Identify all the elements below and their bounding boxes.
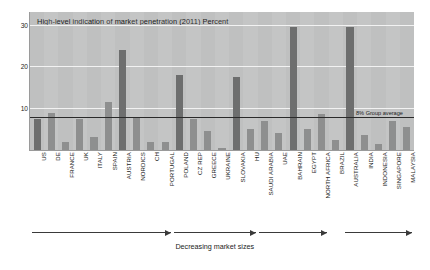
bar xyxy=(275,133,282,150)
bar xyxy=(62,142,69,150)
x-axis-tick-label: UKRAINE xyxy=(224,152,231,180)
market-size-arrow xyxy=(32,228,171,237)
bar xyxy=(105,102,112,150)
x-axis-tick-label: NORDICS xyxy=(139,152,146,181)
x-axis-tick-label: AUSTRIA xyxy=(125,152,132,179)
arrow-shaft xyxy=(345,232,413,233)
x-axis-tick-label: EGYPT xyxy=(310,152,317,173)
x-axis-tick-label: ITALY xyxy=(96,152,103,169)
bar xyxy=(34,119,41,150)
x-axis-tick-label: PORTUGAL xyxy=(168,152,175,186)
x-axis-tick-label: US xyxy=(40,152,47,161)
x-axis-tick-label: HU xyxy=(253,152,260,161)
arrow-head xyxy=(406,230,412,236)
x-axis-tick-label: SAUDI ARABIA xyxy=(267,152,274,196)
bar xyxy=(176,75,183,150)
group-average-label: 8% Group average xyxy=(356,110,403,116)
market-size-arrows: Decreasing market sizes xyxy=(0,228,430,270)
y-axis-tick: 20 xyxy=(2,63,28,70)
x-axis-tick-label: BRAZIL xyxy=(338,152,345,174)
x-axis-tick-label: INDONESIA xyxy=(381,152,388,186)
bar xyxy=(76,119,83,150)
bar xyxy=(190,119,197,150)
bar xyxy=(346,27,353,150)
arrow-head xyxy=(165,230,171,236)
group-average-line xyxy=(30,117,414,118)
arrows-caption: Decreasing market sizes xyxy=(175,242,254,251)
market-size-arrow xyxy=(345,228,413,237)
x-axis-tick-label: AUSTRALIA xyxy=(352,152,359,187)
x-axis-labels: USDEFRANCEUKITALYSPAINAUSTRIANORDICSCHPO… xyxy=(30,152,414,220)
bar xyxy=(48,113,55,150)
arrow-head xyxy=(250,230,256,236)
arrow-shaft xyxy=(259,232,327,233)
x-axis-tick-label: BAHRAIN xyxy=(296,152,303,180)
bar xyxy=(233,77,240,150)
x-axis-tick-label: INDIA xyxy=(367,152,374,169)
bar xyxy=(90,137,97,150)
bar xyxy=(119,50,126,150)
bar xyxy=(247,129,254,150)
column-stripe xyxy=(272,12,286,150)
column-stripe xyxy=(158,12,172,150)
x-axis-tick-label: SPAIN xyxy=(111,152,118,170)
column-stripe xyxy=(215,12,229,150)
bar xyxy=(261,121,268,150)
bar xyxy=(290,27,297,150)
x-axis-tick-label: FRANCE xyxy=(68,152,75,178)
x-axis-tick-label: CH xyxy=(153,152,160,161)
bar xyxy=(204,131,211,150)
x-axis-tick-label: SINGAPORE xyxy=(395,152,402,189)
x-axis-tick-label: CZ REP xyxy=(196,152,203,175)
bar xyxy=(162,142,169,150)
x-axis-tick-label: GREECE xyxy=(210,152,217,178)
plot-area: High-level indication of market penetrat… xyxy=(30,12,414,150)
bar xyxy=(304,129,311,150)
bar xyxy=(403,127,410,150)
y-axis-tick: 30 xyxy=(2,21,28,28)
column-stripe xyxy=(329,12,343,150)
gridline xyxy=(30,25,414,26)
bar xyxy=(389,121,396,150)
bar xyxy=(361,135,368,150)
x-axis-tick-label: NORTH AFRICA xyxy=(324,152,331,198)
y-axis-line xyxy=(29,12,30,151)
y-axis: 102030 xyxy=(0,12,28,150)
bar xyxy=(147,142,154,150)
bar xyxy=(133,117,140,150)
bar xyxy=(318,114,325,150)
x-axis-tick-label: UAE xyxy=(281,152,288,165)
arrow-head xyxy=(321,230,327,236)
column-stripe xyxy=(357,12,371,150)
x-axis-tick-label: SLOVAKIA xyxy=(239,152,246,183)
x-axis-tick-label: DE xyxy=(54,152,61,161)
bar xyxy=(332,140,339,150)
gridline xyxy=(30,66,414,67)
market-size-arrow xyxy=(259,228,327,237)
arrow-shaft xyxy=(32,232,171,233)
x-axis-tick-label: MALAYSIA xyxy=(409,152,416,183)
x-axis-tick-label: UK xyxy=(82,152,89,161)
market-size-arrow xyxy=(174,228,256,237)
chart-root: High-level indication of market penetrat… xyxy=(0,0,430,270)
x-axis-tick-label: POLAND xyxy=(182,152,189,178)
arrow-shaft xyxy=(174,232,256,233)
y-axis-tick: 10 xyxy=(2,105,28,112)
